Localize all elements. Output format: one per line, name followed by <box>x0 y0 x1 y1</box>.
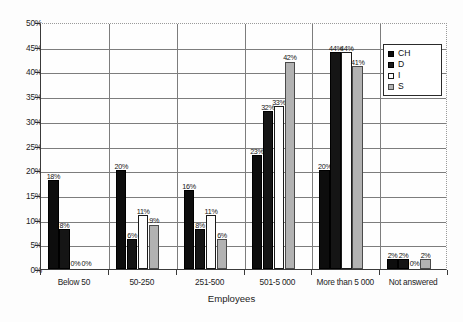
gridline-vertical <box>109 24 110 269</box>
bar-value-label: 42% <box>283 54 297 62</box>
y-axis-tick-label: 20% <box>8 166 42 176</box>
gridline-vertical <box>177 24 178 269</box>
gridline-vertical <box>312 24 313 269</box>
swatch-white-outline-icon <box>388 73 394 79</box>
y-axis-tick-label: 25% <box>8 142 42 152</box>
x-axis-title: Employees <box>0 293 463 304</box>
bar-group: 16%8%11%6% <box>177 24 245 269</box>
gridline-vertical <box>245 24 246 269</box>
bar-d-5: 2% <box>398 259 409 269</box>
bar-value-label: 2% <box>421 252 431 260</box>
bar-value-label: 6% <box>217 232 227 240</box>
x-axis-tick-label: 501-5 000 <box>260 277 296 287</box>
x-axis-tick-label: Not answered <box>389 277 438 287</box>
bar-s-1: 9% <box>149 225 160 269</box>
bar-d-2: 8% <box>195 229 206 269</box>
bar-value-label: 11% <box>137 208 150 216</box>
bar-i-0: 0% <box>70 268 81 269</box>
bar-ch-5: 2% <box>387 259 398 269</box>
legend-item-label: CH <box>398 49 410 58</box>
bar-value-label: 33% <box>272 99 286 107</box>
bar-value-label: 41% <box>351 59 365 67</box>
bar-value-label: 23% <box>250 148 264 156</box>
bar-d-3: 32% <box>263 111 274 269</box>
bar-value-label: 0% <box>71 260 81 268</box>
bar-value-label: 18% <box>47 173 61 181</box>
bar-d-0: 8% <box>59 229 70 269</box>
x-axis-tick <box>108 270 109 275</box>
bar-d-4: 44% <box>330 52 341 269</box>
legend-item-label: S <box>398 82 404 91</box>
bar-s-3: 42% <box>285 62 296 269</box>
legend-item-label: I <box>398 71 400 80</box>
y-axis-tick-label: 10% <box>8 216 42 226</box>
x-axis-tick-label: 251-500 <box>195 277 224 287</box>
bar-group: 18%8%0%0% <box>41 24 109 269</box>
bar-value-label: 2% <box>388 252 398 260</box>
x-axis-tick <box>40 270 41 275</box>
x-axis-tick-label: Below 50 <box>58 277 91 287</box>
y-axis-tick-label: 40% <box>8 67 42 77</box>
bar-value-label: 6% <box>127 232 137 240</box>
bar-value-label: 11% <box>205 208 218 216</box>
x-axis-tick <box>311 270 312 275</box>
bar-s-5: 2% <box>420 259 431 269</box>
bar-ch-2: 16% <box>184 190 195 269</box>
bar-value-label: 8% <box>60 222 70 230</box>
bar-d-1: 6% <box>127 239 138 269</box>
y-axis-tick-label: 45% <box>8 43 42 53</box>
bar-ch-0: 18% <box>48 180 59 269</box>
bar-group: 20%44%44%41% <box>312 24 380 269</box>
x-axis-tick <box>447 270 448 275</box>
bar-value-label: 8% <box>195 222 205 230</box>
legend-item-d[interactable]: D <box>388 59 437 70</box>
swatch-black-dotted-icon <box>388 62 394 68</box>
legend-item-s[interactable]: S <box>388 81 437 92</box>
chart-legend: CHDIS <box>383 44 442 96</box>
y-axis-tick-label: 50% <box>8 18 42 28</box>
bar-i-4: 44% <box>341 52 352 269</box>
bar-ch-1: 20% <box>116 170 127 269</box>
bar-s-2: 6% <box>217 239 228 269</box>
bar-chart: 0%5%10%15%20%25%30%35%40%45%50% 18%8%0%0… <box>0 0 463 322</box>
bar-ch-4: 20% <box>319 170 330 269</box>
y-axis-tick-label: 15% <box>8 191 42 201</box>
bar-i-1: 11% <box>138 215 149 269</box>
x-axis-tick <box>176 270 177 275</box>
legend-item-ch[interactable]: CH <box>388 48 437 59</box>
x-axis-tick <box>244 270 245 275</box>
bar-value-label: 0% <box>82 260 92 268</box>
bar-value-label: 9% <box>149 217 159 225</box>
y-axis-tick-label: 35% <box>8 92 42 102</box>
y-axis-tick-label: 5% <box>8 240 42 250</box>
x-axis-tick-label: More than 5 000 <box>317 277 374 287</box>
y-axis-tick-label: 30% <box>8 117 42 127</box>
gridline-vertical <box>380 24 381 269</box>
swatch-gray-solid-icon <box>388 84 394 90</box>
bar-value-label: 16% <box>182 183 196 191</box>
y-axis-tick-label: 0% <box>8 265 42 275</box>
bar-s-0: 0% <box>81 268 92 269</box>
bar-i-2: 11% <box>206 215 217 269</box>
bar-group: 20%6%11%9% <box>109 24 177 269</box>
bar-value-label: 20% <box>114 163 128 171</box>
legend-item-label: D <box>398 60 404 69</box>
swatch-black-solid-icon <box>388 51 394 57</box>
bar-value-label: 20% <box>318 163 332 171</box>
legend-item-i[interactable]: I <box>388 70 437 81</box>
bar-s-4: 41% <box>352 66 363 269</box>
bar-value-label: 44% <box>340 45 354 53</box>
bar-i-5: 0% <box>409 268 420 269</box>
x-axis-tick-label: 50-250 <box>129 277 154 287</box>
bar-i-3: 33% <box>274 106 285 269</box>
bar-group: 23%32%33%42% <box>245 24 313 269</box>
bar-value-label: 0% <box>410 260 420 268</box>
x-axis-tick <box>379 270 380 275</box>
bar-value-label: 2% <box>399 252 409 260</box>
bar-ch-3: 23% <box>252 155 263 269</box>
